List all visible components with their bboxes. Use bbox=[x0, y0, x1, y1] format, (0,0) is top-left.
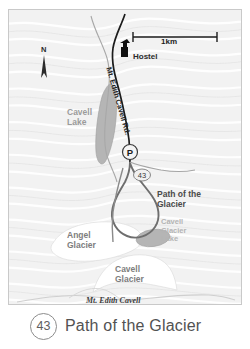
svg-text:43: 43 bbox=[138, 171, 146, 180]
map-graphics: P 43 bbox=[9, 10, 241, 304]
route-number-badge: 43 bbox=[30, 313, 57, 340]
map-canvas[interactable]: P 43 1km N Hostel Cavell Lake Mt. Edith … bbox=[8, 9, 242, 305]
route-shield-icon[interactable]: 43 bbox=[134, 169, 151, 181]
map-title-band: 43 Path of the Glacier bbox=[8, 311, 242, 341]
page-title: Path of the Glacier bbox=[65, 317, 201, 335]
svg-text:P: P bbox=[127, 147, 134, 158]
map-page: P 43 1km N Hostel Cavell Lake Mt. Edith … bbox=[0, 0, 250, 349]
parking-icon[interactable]: P bbox=[123, 145, 138, 160]
